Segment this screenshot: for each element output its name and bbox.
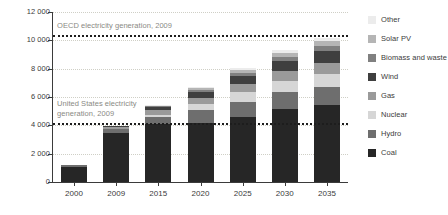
legend-label: Wind (381, 72, 398, 81)
legend-swatch-icon (368, 35, 376, 43)
reference-line-oecd (53, 35, 348, 37)
reference-line-united-states (53, 123, 348, 125)
y-axis-tick-mark (48, 12, 52, 13)
bar-segment-wind (230, 76, 256, 84)
bar-2009[interactable] (103, 126, 129, 182)
bar-segment-coal (188, 123, 214, 182)
y-axis-tick-mark (48, 125, 52, 126)
chart-legend: OtherSolar PVBiomass and wasteWindGasNuc… (368, 10, 448, 162)
gridline (53, 40, 348, 42)
y-axis-tick-label: 10 000 (27, 36, 50, 44)
gridline (53, 69, 348, 71)
x-axis-tick-mark (201, 182, 202, 186)
bar-segment-hydro (314, 87, 340, 105)
legend-swatch-icon (368, 73, 376, 81)
legend-item-solar-pv[interactable]: Solar PV (368, 29, 448, 48)
legend-label: Biomass and waste (381, 53, 447, 62)
x-axis-tick-mark (243, 182, 244, 186)
y-axis-tick-mark (48, 69, 52, 70)
legend-item-wind[interactable]: Wind (368, 67, 448, 86)
legend-label: Nuclear (381, 110, 407, 119)
legend-swatch-icon (368, 130, 376, 138)
x-axis-tick-mark (285, 182, 286, 186)
bar-segment-coal (314, 105, 340, 182)
bar-segment-wind (314, 51, 340, 63)
stacked-bar-chart: TWh 02 0004 0006 0008 00010 00012 000 OE… (0, 0, 448, 215)
bar-2035[interactable] (314, 38, 340, 182)
legend-swatch-icon (368, 54, 376, 62)
legend-swatch-icon (368, 111, 376, 119)
x-axis-tick-mark (116, 182, 117, 186)
bar-2000[interactable] (61, 165, 87, 183)
bar-segment-coal (272, 109, 298, 182)
x-axis-tick-label: 2000 (54, 189, 94, 198)
plot-area: OECD electricity generation, 2009United … (53, 12, 348, 182)
x-axis-tick-label: 2020 (181, 189, 221, 198)
bar-2020[interactable] (188, 87, 214, 182)
bar-segment-hydro (230, 102, 256, 117)
bar-segment-gas (314, 63, 340, 74)
gridline (53, 12, 348, 14)
y-axis-tick-label: 12 000 (27, 8, 50, 16)
legend-label: Gas (381, 91, 395, 100)
legend-swatch-icon (368, 16, 376, 24)
bar-segment-hydro (188, 110, 214, 123)
reference-label-united-states: United States electricity generation, 20… (57, 99, 137, 119)
bar-segment-nuclear (272, 81, 298, 92)
legend-item-coal[interactable]: Coal (368, 143, 448, 162)
x-axis-tick-label: 2015 (138, 189, 178, 198)
bar-segment-nuclear (314, 74, 340, 87)
legend-swatch-icon (368, 92, 376, 100)
y-axis-tick-mark (48, 182, 52, 183)
legend-item-hydro[interactable]: Hydro (368, 124, 448, 143)
x-axis-tick-label: 2035 (307, 189, 347, 198)
legend-item-nuclear[interactable]: Nuclear (368, 105, 448, 124)
bar-segment-gas (272, 71, 298, 81)
y-axis-tick-mark (48, 97, 52, 98)
reference-label-oecd: OECD electricity generation, 2009 (57, 21, 172, 31)
legend-label: Hydro (381, 129, 401, 138)
y-axis-tick-mark (48, 154, 52, 155)
bar-segment-coal (61, 167, 87, 182)
legend-label: Solar PV (381, 34, 411, 43)
bar-segment-gas (188, 98, 214, 105)
x-axis-tick-label: 2025 (223, 189, 263, 198)
bar-2030[interactable] (272, 50, 298, 182)
bar-segment-coal (230, 117, 256, 182)
x-axis-tick-label: 2030 (265, 189, 305, 198)
legend-label: Other (381, 15, 400, 24)
x-axis-tick-mark (327, 182, 328, 186)
x-axis-tick-mark (158, 182, 159, 186)
bar-segment-hydro (272, 92, 298, 109)
bar-segment-coal (103, 133, 129, 182)
bar-segment-gas (230, 84, 256, 93)
legend-item-biomass-and-waste[interactable]: Biomass and waste (368, 48, 448, 67)
legend-swatch-icon (368, 149, 376, 157)
legend-item-other[interactable]: Other (368, 10, 448, 29)
y-axis-tick-labels: 02 0004 0006 0008 00010 00012 000 (14, 12, 50, 182)
bar-segment-coal (145, 124, 171, 182)
x-axis-tick-mark (74, 182, 75, 186)
bar-segment-nuclear (230, 92, 256, 101)
y-axis-tick-mark (48, 40, 52, 41)
legend-item-gas[interactable]: Gas (368, 86, 448, 105)
legend-label: Coal (381, 148, 397, 157)
bar-2015[interactable] (145, 105, 171, 182)
bar-segment-wind (272, 61, 298, 71)
x-axis-tick-label: 2009 (96, 189, 136, 198)
